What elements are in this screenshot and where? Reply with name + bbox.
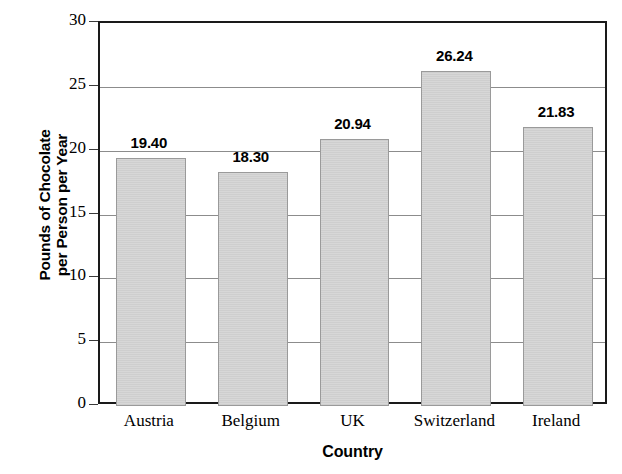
y-axis-tick-label: 10 bbox=[42, 265, 86, 285]
y-axis-tick-label: 0 bbox=[42, 393, 86, 413]
y-axis-tick-mark bbox=[89, 404, 98, 405]
bar bbox=[320, 139, 390, 406]
y-axis-tick-labels: 051015202530 bbox=[38, 0, 86, 474]
bar bbox=[218, 172, 288, 406]
y-axis-tick-mark bbox=[89, 213, 98, 214]
x-axis-tick-label: Ireland bbox=[486, 411, 622, 431]
x-axis-title: Country bbox=[98, 443, 607, 461]
bar bbox=[116, 158, 186, 406]
y-axis-tick-label: 5 bbox=[42, 329, 86, 349]
bar bbox=[523, 127, 593, 406]
bar-value-label: 26.24 bbox=[404, 47, 504, 64]
bar-value-label: 20.94 bbox=[303, 115, 403, 132]
y-axis-tick-label: 15 bbox=[42, 202, 86, 222]
y-axis-tick-label: 20 bbox=[42, 138, 86, 158]
y-axis-tick-mark bbox=[89, 85, 98, 86]
bar bbox=[421, 71, 491, 406]
y-axis-tick-mark bbox=[89, 21, 98, 22]
bar-chart: Pounds of Chocolate per Person per Year … bbox=[0, 0, 622, 474]
plot-area bbox=[98, 21, 607, 404]
gridline bbox=[100, 87, 605, 88]
y-axis-tick-mark bbox=[89, 276, 98, 277]
bar-value-label: 21.83 bbox=[506, 103, 606, 120]
y-axis-tick-mark bbox=[89, 340, 98, 341]
bar-value-label: 18.30 bbox=[201, 148, 301, 165]
y-axis-tick-label: 30 bbox=[42, 10, 86, 30]
y-axis-tick-mark bbox=[89, 149, 98, 150]
y-axis-tick-label: 25 bbox=[42, 74, 86, 94]
bar-value-label: 19.40 bbox=[99, 134, 199, 151]
